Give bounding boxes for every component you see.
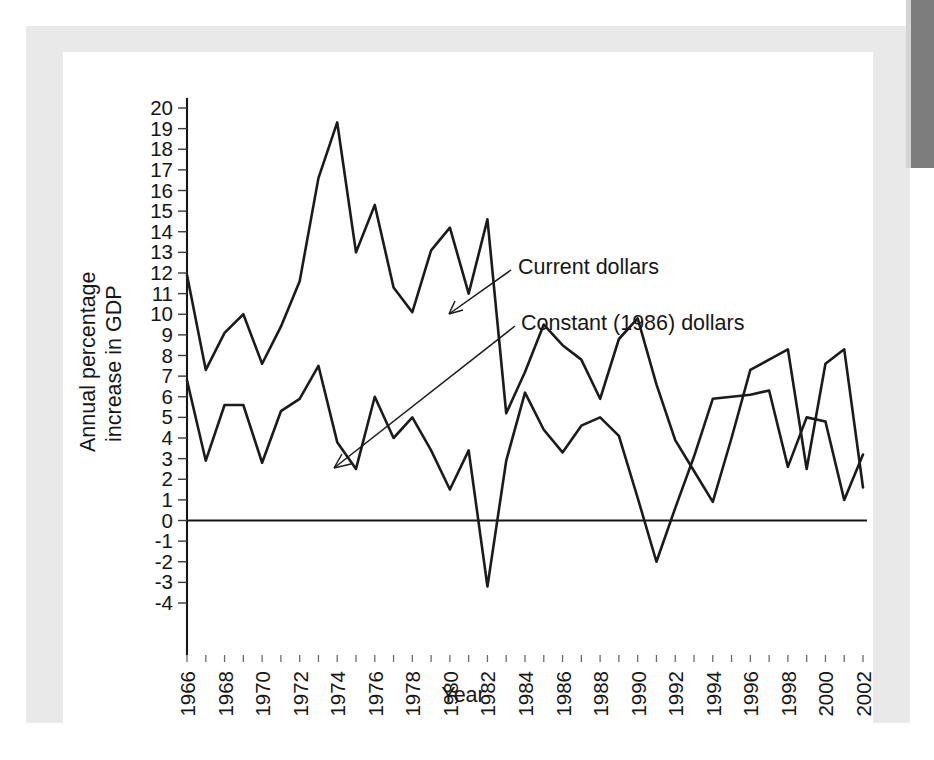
current-dollars-leader-line bbox=[449, 270, 511, 314]
y-tick-label: 18 bbox=[150, 137, 173, 160]
y-tick-label: 0 bbox=[162, 509, 173, 532]
x-tick-label: 1974 bbox=[326, 671, 349, 717]
y-tick-label: 19 bbox=[150, 117, 173, 140]
y-tick-label: -1 bbox=[155, 529, 173, 552]
y-tick-label: 4 bbox=[162, 426, 173, 449]
y-tick-label: 12 bbox=[150, 261, 173, 284]
x-tick-label: 1986 bbox=[552, 671, 575, 717]
y-tick-label: 3 bbox=[162, 447, 173, 470]
y-tick-label: 15 bbox=[150, 199, 173, 222]
series-constant-dollars bbox=[187, 366, 863, 587]
x-tick-label: 1996 bbox=[739, 671, 762, 717]
y-tick-label: 13 bbox=[150, 240, 173, 263]
y-tick-label: 11 bbox=[152, 282, 173, 305]
current-dollars-label: Current dollars bbox=[518, 255, 659, 279]
y-tick-label: -3 bbox=[155, 570, 173, 593]
x-tick-label: 1998 bbox=[777, 671, 800, 717]
x-tick-label: 1980 bbox=[439, 671, 462, 717]
y-tick-label: 10 bbox=[150, 302, 173, 325]
annotation-constant-dollars: Constant (1986) dollars bbox=[334, 311, 744, 468]
x-tick-label: 1982 bbox=[476, 671, 499, 717]
y-tick-label: 6 bbox=[162, 385, 173, 408]
y-tick-label: 7 bbox=[162, 364, 173, 387]
y-tick-label: 14 bbox=[150, 220, 173, 243]
y-tick-label: -4 bbox=[155, 591, 173, 614]
y-tick-label: 1 bbox=[162, 488, 173, 511]
constant-dollars-leader-line bbox=[334, 326, 515, 468]
y-axis-title: Annual percentage increase in GDP bbox=[76, 271, 126, 452]
y-axis-title-line2: increase in GDP bbox=[102, 285, 126, 442]
chart-canvas: Annual percentage increase in GDP Year 2… bbox=[63, 52, 873, 723]
y-axis-title-line1: Annual percentage bbox=[76, 271, 100, 452]
page-frame: Annual percentage increase in GDP Year 2… bbox=[0, 0, 934, 760]
x-tick-label: 1972 bbox=[289, 671, 312, 717]
x-tick-label: 1978 bbox=[401, 671, 424, 717]
x-tick-label: 1970 bbox=[251, 671, 274, 717]
x-axis: 1966196819701972197419761978198019821984… bbox=[176, 655, 873, 717]
y-axis: 20191817161514131211109876543210-1-2-3-4 bbox=[150, 96, 187, 655]
y-tick-label: 17 bbox=[150, 158, 173, 181]
y-tick-label: 5 bbox=[162, 405, 173, 428]
y-tick-label: 2 bbox=[162, 467, 173, 490]
x-tick-label: 1966 bbox=[176, 671, 199, 717]
x-tick-label: 1992 bbox=[664, 671, 687, 717]
annotation-current-dollars: Current dollars bbox=[449, 255, 659, 314]
page-edge-tab bbox=[911, 0, 934, 168]
x-tick-label: 1988 bbox=[589, 671, 612, 717]
y-tick-label: 8 bbox=[162, 344, 173, 367]
x-tick-label: 1976 bbox=[364, 671, 387, 717]
x-tick-label: 1968 bbox=[214, 671, 237, 717]
y-tick-label: -2 bbox=[155, 550, 173, 573]
y-tick-label: 9 bbox=[162, 323, 173, 346]
x-tick-label: 2002 bbox=[852, 671, 873, 717]
constant-dollars-label: Constant (1986) dollars bbox=[521, 311, 744, 335]
x-tick-label: 2000 bbox=[814, 671, 837, 717]
x-tick-label: 1990 bbox=[627, 671, 650, 717]
y-tick-label: 20 bbox=[150, 96, 173, 119]
x-tick-label: 1994 bbox=[702, 671, 725, 717]
y-tick-label: 16 bbox=[150, 179, 173, 202]
gdp-line-chart: Annual percentage increase in GDP Year 2… bbox=[63, 52, 873, 723]
x-tick-label: 1984 bbox=[514, 671, 537, 717]
